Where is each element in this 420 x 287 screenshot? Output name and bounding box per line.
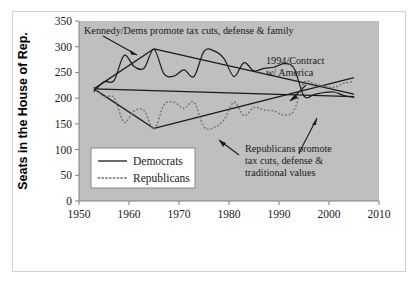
republicans-annotation-line-2: tax cuts, defense & [245,155,323,166]
legend-label-democrats: Democrats [133,155,183,167]
x-tick-label: 2010 [368,208,391,220]
y-axis-title: Seats in the House of Rep. [16,32,30,190]
legend-label-republicans: Republicans [133,172,190,185]
seats-in-house-line-chart: 050100150200250300350 195019601970198019… [13,12,405,271]
y-tick-label: 50 [61,169,73,181]
x-tick-label: 1990 [268,208,291,220]
x-tick-label: 1960 [118,208,141,220]
x-axis-ticks: 1950196019701980199020002010 [68,201,391,220]
y-tick-label: 200 [55,92,73,104]
contract-annotation-line-2: w/ America [266,67,314,78]
y-axis-ticks: 050100150200250300350 [55,15,79,207]
y-tick-label: 350 [55,15,73,27]
x-tick-label: 2000 [318,208,341,220]
chart-legend: Democrats Republicans [91,148,195,188]
y-tick-label: 300 [55,41,73,53]
x-tick-label: 1970 [168,208,191,220]
contract-annotation-line-1: 1994/Contract [266,55,324,66]
x-tick-label: 1950 [68,208,91,220]
y-tick-label: 150 [55,118,73,130]
republicans-annotation-line-3: traditional values [245,167,315,178]
y-tick-label: 100 [55,144,73,156]
republicans-annotation-line-1: Republicans promote [245,143,332,154]
chart-figure: 050100150200250300350 195019601970198019… [12,11,406,272]
y-tick-label: 0 [66,195,72,207]
x-tick-label: 1980 [218,208,241,220]
kennedy-annotation-text: Kennedy/Dems promote tax cuts, defense &… [84,25,295,36]
y-tick-label: 250 [55,66,73,78]
